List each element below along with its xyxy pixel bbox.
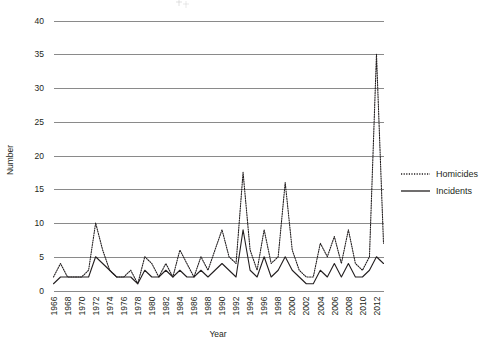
- x-tick-label: 2012: [372, 296, 382, 315]
- x-tick-label: 2002: [301, 296, 311, 315]
- x-tick-label: 2004: [316, 296, 326, 315]
- line-chart-svg: 0510152025303540 19661968197019721974197…: [0, 0, 489, 347]
- x-tick-label: 1970: [77, 296, 87, 315]
- legend-label-homicides: Homicides: [436, 169, 479, 179]
- x-tick-label: 1998: [273, 296, 283, 315]
- y-tick-label: 35: [35, 49, 45, 59]
- y-tick-label: 5: [39, 252, 44, 262]
- y-axis-tick-labels: 0510152025303540: [35, 16, 45, 296]
- y-tick-label: 10: [35, 218, 45, 228]
- legend-label-incidents: Incidents: [436, 186, 473, 196]
- x-tick-label: 1984: [175, 296, 185, 315]
- x-tick-label: 1986: [189, 296, 199, 315]
- x-tick-label: 1972: [91, 296, 101, 315]
- x-tick-label: 1980: [147, 296, 157, 315]
- x-tick-label: 1966: [49, 296, 59, 315]
- y-tick-label: 0: [39, 286, 44, 296]
- y-tick-label: 40: [35, 16, 45, 26]
- x-tick-label: 1992: [231, 296, 241, 315]
- y-tick-label: 20: [35, 151, 45, 161]
- x-tick-label: 2008: [344, 296, 354, 315]
- x-tick-label: 1982: [161, 296, 171, 315]
- crop-mark-icon: [176, 0, 189, 8]
- chart-figure: 0510152025303540 19661968197019721974197…: [0, 0, 489, 347]
- x-tick-label: 1988: [203, 296, 213, 315]
- x-tick-label: 1994: [245, 296, 255, 315]
- x-tick-label: 1996: [259, 296, 269, 315]
- chart-legend: HomicidesIncidents: [401, 169, 479, 196]
- x-tick-label: 1974: [105, 296, 115, 315]
- x-tick-label: 1968: [63, 296, 73, 315]
- y-axis-title: Number: [5, 145, 15, 175]
- x-axis-tick-labels: 1966196819701972197419761978198019821984…: [49, 296, 382, 315]
- y-tick-label: 15: [35, 184, 45, 194]
- y-tick-label: 25: [35, 117, 45, 127]
- x-tick-label: 1976: [119, 296, 129, 315]
- x-tick-label: 1978: [133, 296, 143, 315]
- x-axis-title: Year: [209, 329, 226, 339]
- y-tick-label: 30: [35, 83, 45, 93]
- x-tick-label: 2000: [287, 296, 297, 315]
- x-tick-label: 2010: [358, 296, 368, 315]
- x-tick-label: 2006: [330, 296, 340, 315]
- x-tick-label: 1990: [217, 296, 227, 315]
